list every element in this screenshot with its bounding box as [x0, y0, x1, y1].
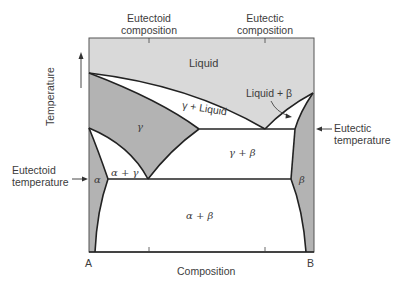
eutectic-composition-line1: Eutectic [234, 12, 296, 24]
eutectoid-composition-line1: Eutectoid [118, 12, 180, 24]
gamma-beta-region-label: γ + β [229, 147, 256, 159]
eutectic-temperature-label: Eutectic temperature [334, 122, 391, 146]
temperature-arrowhead-icon [79, 52, 84, 59]
eutectic-composition-label: Eutectic composition [234, 12, 296, 36]
eutectoid-temperature-line2: temperature [12, 176, 69, 188]
liquid-region-label: Liquid [189, 57, 218, 69]
eutectic-temperature-line2: temperature [334, 134, 391, 146]
eutectoid-composition-line2: composition [118, 24, 180, 36]
eutectoid-temperature-label: Eutectoid temperature [12, 164, 69, 188]
component-a-label: A [85, 257, 92, 269]
eutectic-temp-arrowhead-icon [316, 127, 322, 132]
temperature-axis-label: Temperature [44, 66, 56, 126]
eutectic-composition-line2: composition [234, 24, 296, 36]
component-b-label: B [307, 257, 314, 269]
eutectic-temperature-line1: Eutectic [334, 122, 391, 134]
eutectoid-composition-label: Eutectoid composition [118, 12, 180, 36]
eutectoid-temperature-line1: Eutectoid [12, 164, 69, 176]
eutectoid-temp-arrowhead-icon [82, 177, 88, 182]
beta-region-label: β [299, 174, 305, 186]
composition-axis-label: Composition [177, 265, 235, 277]
alpha-beta-region-label: α + β [186, 210, 213, 222]
gamma-region-label: γ [137, 121, 143, 133]
alpha-region-label: α [94, 174, 101, 186]
alpha-gamma-region-label: α + γ [111, 167, 138, 179]
liquid-beta-region-label: Liquid + β [246, 87, 292, 99]
